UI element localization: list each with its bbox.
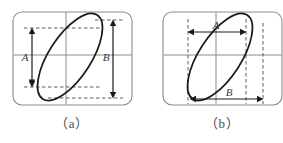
- label-B-panel-b: B: [226, 86, 233, 98]
- panel-b-caption: （b）: [177, 113, 267, 132]
- panel-a-caption: （a）: [27, 113, 117, 132]
- caption-row: （a） （b）: [0, 113, 283, 143]
- panel-b: A B: [163, 4, 282, 111]
- panel-a: A B: [13, 4, 132, 111]
- label-A-panel-a: A: [21, 51, 29, 63]
- figure-root: A B: [0, 0, 283, 143]
- label-B-panel-a: B: [103, 51, 110, 63]
- oscilloscope-screen-b: [163, 12, 282, 105]
- label-A-panel-b: A: [212, 19, 220, 31]
